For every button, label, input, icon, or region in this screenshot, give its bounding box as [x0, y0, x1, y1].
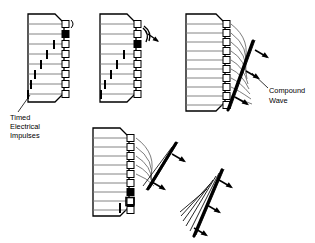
timed-impulses-label-line1: Timed [10, 113, 30, 122]
phased-array-wave-diagram: Timed Electrical Impulses [0, 0, 315, 243]
transducer-body [93, 128, 129, 216]
compound-wave-label-line2: Wave [269, 96, 288, 105]
compound-wave-label-line1: Compound [269, 86, 305, 95]
timed-impulses-label-line3: Impulses [10, 131, 40, 140]
active-element [134, 41, 141, 48]
timed-impulses-label-line2: Electrical [10, 122, 40, 131]
active-element [62, 31, 69, 38]
active-element [127, 189, 134, 196]
transducer-elements [127, 135, 134, 214]
